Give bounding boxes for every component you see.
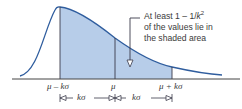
label-upper-bound: μ + kσ [159,81,183,91]
interval-left-label: kσ [77,92,85,102]
annotation-text: At least 1 – 1/k2 of the values lie in t… [144,11,213,44]
label-lower-bound: μ – kσ [47,81,69,91]
annotation-line-2: of the values lie in [144,22,213,33]
annotation-line-1: At least 1 – 1/k2 [144,11,213,22]
label-mean: μ [111,81,116,91]
interval-right-label: kσ [132,92,140,102]
annotation-line-3: the shaded area [144,33,213,44]
